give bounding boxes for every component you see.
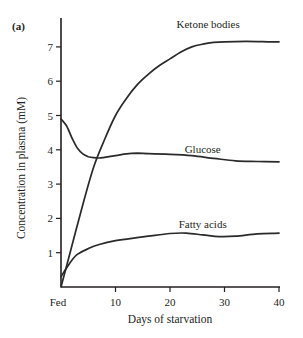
y-tick-label: 4 — [48, 144, 54, 156]
label-glucose: Glucose — [185, 143, 221, 155]
series-lines — [61, 41, 279, 287]
label-ketone-bodies: Ketone bodies — [177, 18, 240, 30]
y-tick-label: 2 — [48, 212, 54, 224]
line-fatty-acids — [61, 233, 279, 277]
panel-label: (a) — [12, 20, 25, 33]
x-tick-label: 20 — [165, 296, 177, 308]
x-tick-label: 40 — [274, 296, 286, 308]
y-tick-label: 7 — [48, 41, 54, 53]
line-glucose — [61, 119, 279, 162]
x-tick-label: 30 — [219, 296, 231, 308]
y-tick-label: 6 — [48, 75, 54, 87]
x-tick-label: 10 — [110, 296, 122, 308]
y-axis-label: Concentration in plasma (mM) — [15, 97, 28, 239]
chart: (a) 1234567Fed10203040 Ketone bodiesGluc… — [0, 0, 303, 338]
y-tick-label: 1 — [48, 247, 54, 259]
y-tick-label: 5 — [48, 110, 54, 122]
x-axis-label: Days of starvation — [128, 313, 213, 326]
x-tick-label: Fed — [50, 296, 67, 308]
label-fatty-acids: Fatty acids — [179, 218, 227, 230]
line-ketone-bodies — [61, 41, 279, 287]
y-tick-label: 3 — [48, 178, 54, 190]
